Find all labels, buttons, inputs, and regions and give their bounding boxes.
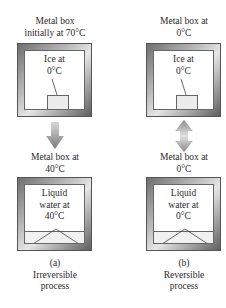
metal-box-initial-0c: Ice at 0°C [146,43,221,117]
panel-a-title: (a) Irreversible process [5,258,105,293]
leader-lines [25,185,85,244]
down-arrow-icon [45,122,65,150]
metal-box-final-0c: Liquid water at 0°C [146,177,221,251]
box-interior: Ice at 0°C [153,50,214,110]
box-interior: Liquid water at 0°C [153,184,214,244]
box-interior: Liquid water at 40°C [24,184,85,244]
metal-box-final-40c: Liquid water at 40°C [17,177,92,251]
panel-b-bottom-caption: Metal box at 0°C [134,152,226,175]
panel-a-bottom-caption: Metal box at 40°C [5,152,105,175]
double-headed-arrow-icon [174,120,194,152]
box-interior: Ice at 0°C [24,50,85,110]
panel-a-top-caption: Metal box initially at 70°C [5,16,105,39]
leader-lines [154,185,214,244]
ice-block [47,95,69,109]
panel-b-title: (b) Reversible process [134,258,226,293]
panel-b-top-caption: Metal box at 0°C [134,16,226,39]
metal-box-initial-70c: Ice at 0°C [17,43,92,117]
ice-block [176,95,198,109]
